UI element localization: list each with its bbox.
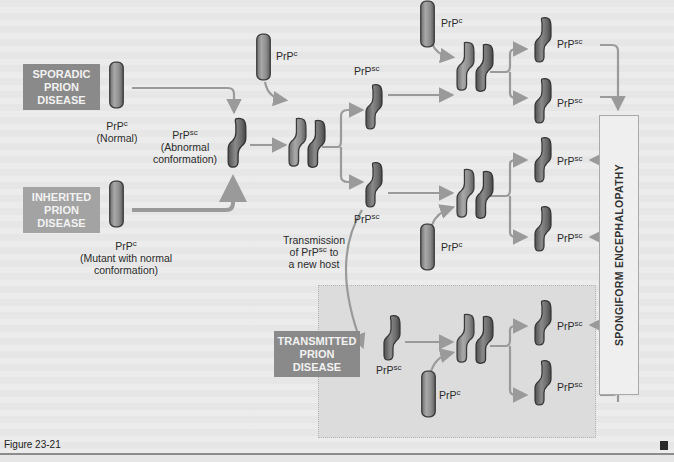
- prpsc-transmitted: [384, 316, 400, 360]
- box-text: PRION: [278, 348, 357, 361]
- prpsc-out-6: [535, 361, 551, 405]
- prpsc-out-5: [535, 301, 551, 345]
- label-prpc-1: PrPc: [276, 50, 298, 62]
- box-text: TRANSMITTED: [278, 335, 357, 348]
- label-prpsc-out-4: PrPsc: [557, 232, 583, 244]
- box-text: INHERITED: [32, 191, 91, 204]
- prpc-rod-3: [421, 224, 435, 270]
- label-prpsc-lower: PrPsc: [354, 213, 380, 225]
- box-text: PRION: [32, 81, 90, 94]
- label-prpc-2: PrPc: [441, 17, 463, 29]
- label-prpsc-out-6: PrPsc: [557, 381, 583, 393]
- dimer-1: [289, 118, 325, 167]
- box-text: PRION: [32, 204, 91, 217]
- prpsc-out-2: [535, 79, 551, 123]
- prpsc-out-1: [535, 18, 551, 62]
- box-text: SPORADIC: [32, 68, 90, 81]
- prpsc-upper: [366, 85, 382, 129]
- label-prpsc-out-3: PrPsc: [557, 155, 583, 167]
- prpc-rod-4: [422, 371, 436, 417]
- label-prpc-3: PrPc: [441, 241, 463, 253]
- prpc-rod-2: [421, 1, 435, 47]
- label-prpsc-transmitted: PrPsc: [376, 364, 402, 376]
- inherited-prion-disease-box: INHERITED PRION DISEASE: [23, 187, 100, 233]
- sporadic-prion-disease-box: SPORADIC PRION DISEASE: [23, 64, 100, 110]
- label-transmission: Transmission of PrPsc to a new host: [278, 234, 350, 270]
- label-prpc-mutant: PrPc (Mutant with normal conformation): [70, 240, 182, 276]
- transmitted-prion-disease-box: TRANSMITTED PRION DISEASE: [274, 331, 360, 377]
- label-prpc-4: PrPc: [439, 389, 461, 401]
- prpsc-out-4: [535, 207, 551, 251]
- label-prpsc-out-5: PrPsc: [557, 320, 583, 332]
- label-prpc-normal: PrPc (Normal): [94, 120, 140, 144]
- outcome-label: SPONGIFORM ENCEPHALOPATHY: [613, 164, 625, 346]
- prpc-mutant-rod: [110, 181, 124, 227]
- box-text: DISEASE: [32, 217, 91, 230]
- figure-caption: Figure 23-21: [4, 439, 61, 450]
- caption-rule: [0, 453, 674, 455]
- label-prpsc-out-2: PrPsc: [557, 97, 583, 109]
- prpc-normal-rod: [110, 62, 124, 108]
- spongiform-encephalopathy-box: SPONGIFORM ENCEPHALOPATHY: [599, 115, 639, 395]
- prpc-rod-1: [257, 34, 271, 80]
- label-prpsc-out-1: PrPsc: [557, 38, 583, 50]
- box-text: DISEASE: [32, 94, 90, 107]
- dimer-3: [457, 169, 493, 218]
- box-text: DISEASE: [278, 361, 357, 374]
- end-marker-icon: [660, 441, 668, 450]
- prpsc-out-3: [535, 138, 551, 182]
- label-prpsc-upper: PrPsc: [354, 65, 380, 77]
- dimer-2: [457, 42, 493, 91]
- prpsc-lower: [366, 163, 382, 207]
- label-prpsc-abnormal: PrPsc (Abnormal conformation): [152, 129, 218, 165]
- prpsc-abnormal: [228, 118, 246, 167]
- dimer-4: [457, 314, 493, 363]
